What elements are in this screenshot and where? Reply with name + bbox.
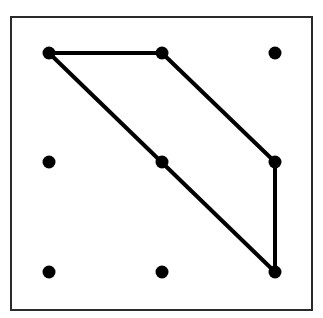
grid-dot-r1c0 [43, 156, 56, 169]
grid-dot-r0c0 [43, 47, 56, 60]
grid-dot-r2c0 [43, 266, 56, 279]
grid-dot-r1c2 [269, 156, 282, 169]
grid-dot-r0c1 [156, 47, 169, 60]
dot-grid-diagram [0, 0, 323, 318]
grid-dot-r2c2 [269, 266, 282, 279]
grid-dot-r2c1 [156, 266, 169, 279]
grid-dot-r1c1 [156, 156, 169, 169]
grid-dot-r0c2 [269, 47, 282, 60]
